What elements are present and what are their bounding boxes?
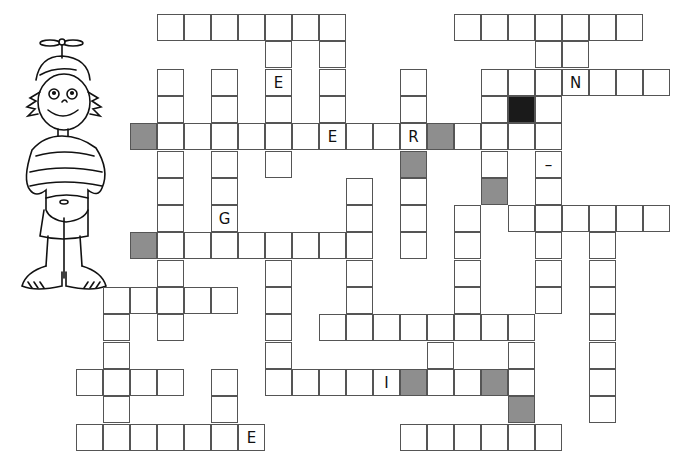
crossword-cell[interactable]	[184, 14, 211, 41]
crossword-cell[interactable]	[589, 287, 616, 314]
crossword-cell[interactable]	[265, 232, 292, 259]
crossword-cell[interactable]	[508, 369, 535, 396]
crossword-cell[interactable]	[292, 14, 319, 41]
crossword-cell[interactable]	[211, 396, 238, 423]
crossword-cell[interactable]: E	[319, 123, 346, 150]
crossword-cell[interactable]	[211, 369, 238, 396]
crossword-cell[interactable]	[265, 151, 292, 178]
crossword-cell[interactable]	[130, 424, 157, 451]
crossword-cell[interactable]	[535, 178, 562, 205]
crossword-cell[interactable]	[184, 424, 211, 451]
crossword-cell[interactable]	[400, 314, 427, 341]
crossword-cell[interactable]	[535, 123, 562, 150]
crossword-cell[interactable]	[76, 424, 103, 451]
crossword-cell[interactable]	[535, 69, 562, 96]
crossword-cell[interactable]	[481, 14, 508, 41]
crossword-cell[interactable]	[319, 41, 346, 68]
crossword-cell[interactable]	[616, 69, 643, 96]
crossword-cell[interactable]	[508, 424, 535, 451]
crossword-cell[interactable]	[211, 14, 238, 41]
crossword-cell[interactable]	[211, 151, 238, 178]
crossword-cell[interactable]	[130, 287, 157, 314]
crossword-cell[interactable]	[157, 369, 184, 396]
crossword-cell[interactable]	[319, 14, 346, 41]
crossword-cell[interactable]	[211, 96, 238, 123]
crossword-cell[interactable]	[319, 232, 346, 259]
crossword-cell[interactable]	[454, 205, 481, 232]
crossword-cell[interactable]	[427, 369, 454, 396]
crossword-cell[interactable]	[238, 232, 265, 259]
crossword-cell[interactable]	[535, 96, 562, 123]
crossword-cell[interactable]	[238, 123, 265, 150]
crossword-cell[interactable]	[589, 260, 616, 287]
crossword-cell[interactable]	[292, 232, 319, 259]
crossword-cell[interactable]	[265, 287, 292, 314]
crossword-cell[interactable]	[508, 342, 535, 369]
crossword-cell[interactable]	[103, 369, 130, 396]
crossword-cell[interactable]	[589, 14, 616, 41]
crossword-cell[interactable]	[535, 287, 562, 314]
crossword-cell[interactable]	[427, 342, 454, 369]
crossword-cell[interactable]	[427, 314, 454, 341]
crossword-cell[interactable]	[400, 96, 427, 123]
crossword-cell[interactable]	[130, 369, 157, 396]
crossword-cell[interactable]	[562, 14, 589, 41]
crossword-cell[interactable]	[265, 369, 292, 396]
crossword-cell[interactable]	[589, 69, 616, 96]
crossword-cell[interactable]	[589, 205, 616, 232]
crossword-cell[interactable]	[238, 14, 265, 41]
crossword-cell[interactable]	[400, 424, 427, 451]
crossword-cell[interactable]	[157, 424, 184, 451]
crossword-cell[interactable]	[400, 178, 427, 205]
crossword-cell[interactable]	[454, 260, 481, 287]
crossword-cell[interactable]	[481, 69, 508, 96]
crossword-cell[interactable]	[103, 314, 130, 341]
crossword-cell[interactable]	[265, 14, 292, 41]
crossword-cell[interactable]	[535, 41, 562, 68]
crossword-cell[interactable]	[616, 205, 643, 232]
crossword-cell[interactable]	[373, 314, 400, 341]
crossword-cell[interactable]	[454, 14, 481, 41]
crossword-cell[interactable]: –	[535, 151, 562, 178]
crossword-cell[interactable]	[211, 178, 238, 205]
crossword-cell[interactable]: R	[400, 123, 427, 150]
crossword-cell[interactable]	[346, 232, 373, 259]
crossword-cell[interactable]	[265, 260, 292, 287]
crossword-cell[interactable]	[535, 232, 562, 259]
crossword-cell[interactable]	[346, 123, 373, 150]
crossword-cell[interactable]	[184, 232, 211, 259]
crossword-cell[interactable]: E	[265, 69, 292, 96]
crossword-cell[interactable]	[292, 123, 319, 150]
crossword-cell[interactable]	[157, 314, 184, 341]
crossword-cell[interactable]	[454, 287, 481, 314]
crossword-cell[interactable]	[346, 287, 373, 314]
crossword-cell[interactable]	[346, 205, 373, 232]
crossword-cell[interactable]	[400, 232, 427, 259]
crossword-cell[interactable]	[184, 287, 211, 314]
crossword-cell[interactable]	[616, 14, 643, 41]
crossword-cell[interactable]	[643, 205, 670, 232]
crossword-cell[interactable]	[589, 342, 616, 369]
crossword-cell[interactable]	[400, 69, 427, 96]
crossword-cell[interactable]	[103, 287, 130, 314]
crossword-cell[interactable]	[211, 287, 238, 314]
crossword-cell[interactable]	[265, 123, 292, 150]
crossword-cell[interactable]	[346, 314, 373, 341]
crossword-cell[interactable]	[76, 369, 103, 396]
crossword-cell[interactable]	[454, 123, 481, 150]
crossword-cell[interactable]	[454, 232, 481, 259]
crossword-cell[interactable]	[481, 424, 508, 451]
crossword-cell[interactable]	[562, 205, 589, 232]
crossword-cell[interactable]	[454, 424, 481, 451]
crossword-cell[interactable]	[589, 314, 616, 341]
crossword-cell[interactable]	[643, 69, 670, 96]
crossword-cell[interactable]	[319, 96, 346, 123]
crossword-cell[interactable]: I	[373, 369, 400, 396]
crossword-cell[interactable]	[535, 260, 562, 287]
crossword-cell[interactable]	[157, 151, 184, 178]
crossword-cell[interactable]	[400, 205, 427, 232]
crossword-cell[interactable]	[589, 232, 616, 259]
crossword-cell[interactable]	[454, 314, 481, 341]
crossword-cell[interactable]	[211, 123, 238, 150]
crossword-cell[interactable]	[157, 69, 184, 96]
